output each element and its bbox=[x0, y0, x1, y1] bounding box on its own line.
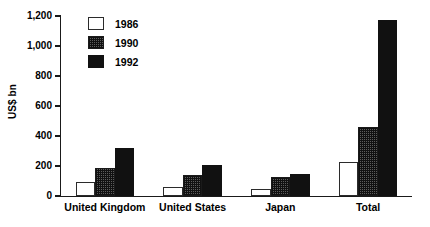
bar[interactable] bbox=[271, 177, 291, 196]
bar[interactable] bbox=[290, 174, 310, 196]
bar[interactable] bbox=[202, 165, 222, 196]
y-tick-label-600: 600 bbox=[0, 101, 52, 111]
x-axis-label: Japan bbox=[237, 201, 325, 213]
y-tick-label-1200: 1,200 bbox=[0, 11, 52, 21]
legend-swatch-icon-1986 bbox=[88, 17, 104, 30]
bar[interactable] bbox=[76, 182, 96, 196]
legend-item-1992[interactable]: 1992 bbox=[88, 52, 138, 71]
legend-swatch-icon-1992 bbox=[88, 55, 104, 68]
y-tick-label-0: 0 bbox=[0, 191, 52, 201]
x-axis-label: Total bbox=[324, 201, 412, 213]
bar[interactable] bbox=[251, 189, 271, 197]
x-axis-label: United Kingdom bbox=[61, 201, 149, 213]
bar[interactable] bbox=[163, 187, 183, 196]
legend-item-1986[interactable]: 1986 bbox=[88, 14, 138, 33]
bar[interactable] bbox=[339, 162, 359, 196]
x-axis-label: United States bbox=[149, 201, 237, 213]
y-tick-label-200: 200 bbox=[0, 161, 52, 171]
legend-label-1986: 1986 bbox=[115, 18, 138, 30]
legend-label-1990: 1990 bbox=[115, 37, 138, 49]
legend-swatch-icon-1990 bbox=[88, 36, 104, 49]
y-tick-label-800: 800 bbox=[0, 71, 52, 81]
bar[interactable] bbox=[378, 20, 398, 196]
y-tick-label-400: 400 bbox=[0, 131, 52, 141]
bar-chart: US$ bn 02004006008001,0001,200 United Ki… bbox=[0, 0, 430, 227]
legend-label-1992: 1992 bbox=[115, 56, 138, 68]
bar[interactable] bbox=[183, 175, 203, 196]
y-tick-label-1000: 1,000 bbox=[0, 41, 52, 51]
bar[interactable] bbox=[95, 168, 115, 197]
bar[interactable] bbox=[358, 127, 378, 196]
legend: 1986 1990 1992 bbox=[88, 14, 138, 71]
bar[interactable] bbox=[115, 148, 135, 196]
legend-item-1990[interactable]: 1990 bbox=[88, 33, 138, 52]
